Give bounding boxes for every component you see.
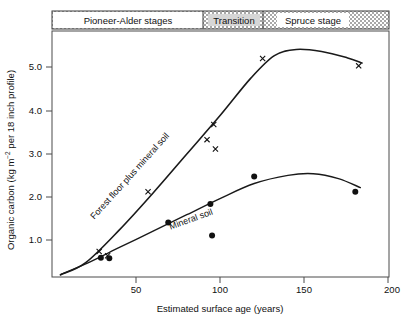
fit-curve-mineral-soil	[60, 173, 360, 274]
x-axis: 50 100 150 200 Estimated surface age (ye…	[131, 277, 400, 314]
data-point-marker	[213, 146, 218, 151]
y-tick-label-5: 5.0	[29, 61, 42, 72]
plot-border	[52, 31, 389, 277]
fit-curve-forest-floor-plus-mineral-soil	[60, 49, 362, 275]
banner-label-transition: Transition	[213, 15, 254, 26]
data-point-marker	[352, 189, 358, 195]
x-tick-label-200: 200	[384, 284, 400, 295]
y-axis-title-post: per 18 inch profile)	[5, 70, 16, 151]
curve-label-mineral-soil: Mineral soil	[168, 207, 214, 232]
stage-banner: Pioneer-Alder stages Transition Spruce s…	[52, 11, 389, 29]
x-axis-title: Estimated surface age (years)	[157, 303, 284, 314]
x-tick-label-50: 50	[131, 284, 142, 295]
data-points-mineral-soil	[98, 174, 358, 262]
data-point-marker	[145, 189, 150, 194]
x-tick-label-100: 100	[212, 284, 228, 295]
y-tick-label-1: 1.0	[29, 234, 42, 245]
y-tick-label-2: 2.0	[29, 191, 42, 202]
plot-frame	[52, 31, 389, 277]
figure-container: Pioneer-Alder stages Transition Spruce s…	[0, 0, 409, 324]
y-axis: 1.0 2.0 3.0 4.0 5.0 Organic carbon (kg m…	[4, 61, 52, 250]
data-point-marker	[98, 255, 104, 261]
data-points-forest-floor-plus-mineral-soil	[97, 56, 362, 258]
data-point-marker	[251, 174, 257, 180]
data-point-marker	[260, 56, 265, 61]
y-tick-label-3: 3.0	[29, 148, 42, 159]
banner-label-pioneer-alder: Pioneer-Alder stages	[84, 15, 173, 26]
data-point-marker	[356, 63, 361, 68]
data-point-marker	[106, 255, 112, 261]
organic-carbon-chart: Pioneer-Alder stages Transition Spruce s…	[0, 0, 409, 324]
data-point-marker	[204, 137, 209, 142]
y-axis-title-pre: Organic carbon (kg m	[5, 159, 16, 250]
data-point-marker	[209, 233, 215, 239]
series-curves	[60, 49, 362, 275]
x-tick-label-150: 150	[296, 284, 312, 295]
banner-label-spruce: Spruce stage	[285, 15, 341, 26]
y-tick-label-4: 4.0	[29, 105, 42, 116]
curve-label-forest-floor-plus-mineral-soil: Forest floor plus mineral soil	[88, 131, 171, 221]
y-axis-title: Organic carbon (kg m−2 per 18 inch profi…	[4, 70, 16, 250]
